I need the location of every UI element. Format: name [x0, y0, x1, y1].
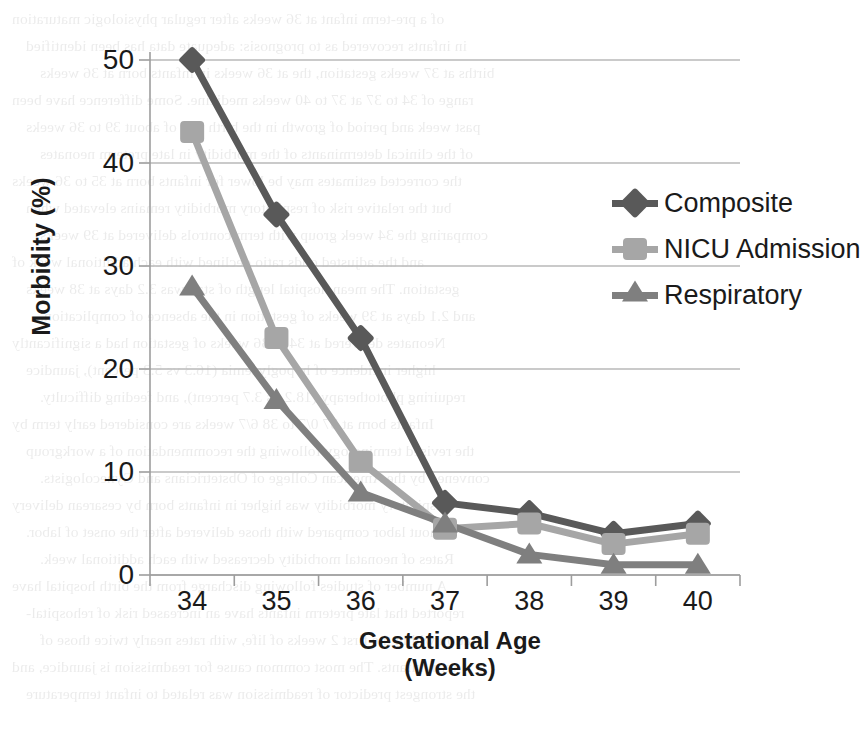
legend-line-swatch — [612, 292, 658, 299]
data-point-nicu-admission-34 — [180, 121, 204, 143]
legend-marker-diamond-icon — [619, 187, 650, 218]
y-axis-tick-label: 10 — [70, 456, 134, 488]
x-axis-title-line1: Gestational Age — [140, 628, 760, 655]
legend-line-swatch — [612, 200, 658, 207]
x-axis-tick-label-38: 38 — [494, 586, 564, 617]
x-axis-tick-label-36: 36 — [326, 586, 396, 617]
chart-legend: CompositeNICU AdmissionRespiratory — [612, 180, 861, 318]
x-axis-title-line2: (Weeks) — [140, 655, 760, 682]
y-axis-tick-label: 40 — [70, 147, 134, 179]
data-point-nicu-admission-36 — [349, 451, 373, 473]
data-point-composite-34 — [178, 46, 206, 74]
y-axis-tick-label: 30 — [70, 250, 134, 282]
data-point-nicu-admission-40 — [686, 523, 710, 545]
data-point-nicu-admission-38 — [517, 513, 541, 535]
legend-marker-square-icon — [623, 238, 647, 260]
legend-label: Respiratory — [664, 280, 802, 311]
x-axis-tick-label-40: 40 — [663, 586, 733, 617]
legend-label: Composite — [664, 188, 793, 219]
x-axis-tick-label-37: 37 — [410, 586, 480, 617]
y-axis-tick-label: 0 — [70, 559, 134, 591]
legend-item-composite[interactable]: Composite — [612, 180, 861, 226]
data-point-nicu-admission-39 — [602, 533, 626, 555]
legend-marker-triangle-icon — [622, 281, 648, 302]
x-axis-tick-label-35: 35 — [241, 586, 311, 617]
legend-item-nicu-admission[interactable]: NICU Admission — [612, 226, 861, 272]
data-point-respiratory-34 — [179, 275, 205, 296]
x-axis-tick-label-39: 39 — [579, 586, 649, 617]
y-axis-tick-label: 50 — [70, 44, 134, 76]
legend-label: NICU Admission — [664, 234, 861, 265]
y-axis-tick-label: 20 — [70, 353, 134, 385]
x-axis-tick-label-34: 34 — [157, 586, 227, 617]
data-point-nicu-admission-35 — [264, 327, 288, 349]
x-axis-title: Gestational Age (Weeks) — [140, 628, 760, 682]
legend-line-swatch — [612, 246, 658, 253]
legend-item-respiratory[interactable]: Respiratory — [612, 272, 861, 318]
